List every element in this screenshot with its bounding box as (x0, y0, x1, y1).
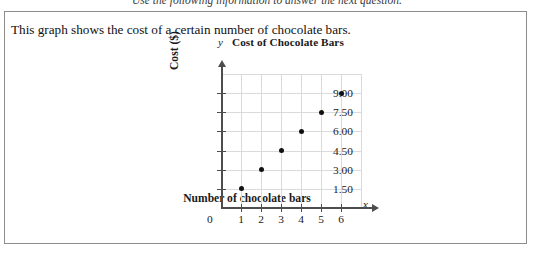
x-axis-tick (341, 204, 342, 212)
data-point (279, 148, 284, 153)
x-axis-tick-label: 1 (234, 214, 248, 225)
x-axis-tick (261, 204, 262, 212)
x-axis-arrow-icon (372, 204, 379, 212)
origin-label: 0 (207, 214, 213, 225)
y-axis-tick (217, 93, 226, 94)
chart-figure: Cost of Chocolate Bars y x Cost ($) Numb… (177, 36, 392, 236)
y-axis-tick-label: 4.50 (333, 146, 353, 156)
instruction-line: Use the following information to answer … (0, 0, 534, 7)
y-axis-variable-label: y (218, 36, 223, 48)
y-axis-tick (217, 131, 226, 132)
x-axis-tick-label: 5 (314, 214, 328, 225)
x-axis-tick-label: 4 (294, 214, 308, 225)
y-axis-tick-label: 6.00 (333, 126, 353, 136)
y-axis-tick (217, 112, 226, 113)
y-axis-tick-label: 3.00 (333, 165, 353, 175)
y-axis-line (221, 66, 223, 208)
y-axis-tick-label: 7.50 (333, 107, 353, 117)
plot-area: 1.503.004.506.007.509.00123456 0 (221, 74, 361, 208)
data-point (319, 110, 324, 115)
x-axis-tick (281, 204, 282, 212)
x-axis-tick-label: 6 (334, 214, 348, 225)
x-axis-tick-label: 2 (254, 214, 268, 225)
x-axis-line (221, 207, 373, 209)
data-point (299, 129, 304, 134)
question-panel: This graph shows the cost of a certain n… (4, 11, 527, 244)
data-point (239, 186, 244, 191)
x-axis-tick (301, 204, 302, 212)
x-axis-tick (321, 204, 322, 212)
x-axis-tick-label: 3 (274, 214, 288, 225)
grid-line-horizontal (221, 74, 361, 75)
chart-title: Cost of Chocolate Bars (232, 36, 344, 48)
grid-line-vertical (361, 74, 362, 208)
data-point (259, 167, 264, 172)
y-axis-title: Cost ($) (168, 31, 181, 70)
y-axis-tick (217, 170, 226, 171)
y-axis-tick (217, 189, 226, 190)
y-axis-tick-label: 1.50 (333, 184, 353, 194)
x-axis-tick (241, 204, 242, 212)
y-axis-tick (217, 151, 226, 152)
data-point (339, 91, 344, 96)
y-axis-arrow-icon (218, 60, 226, 67)
